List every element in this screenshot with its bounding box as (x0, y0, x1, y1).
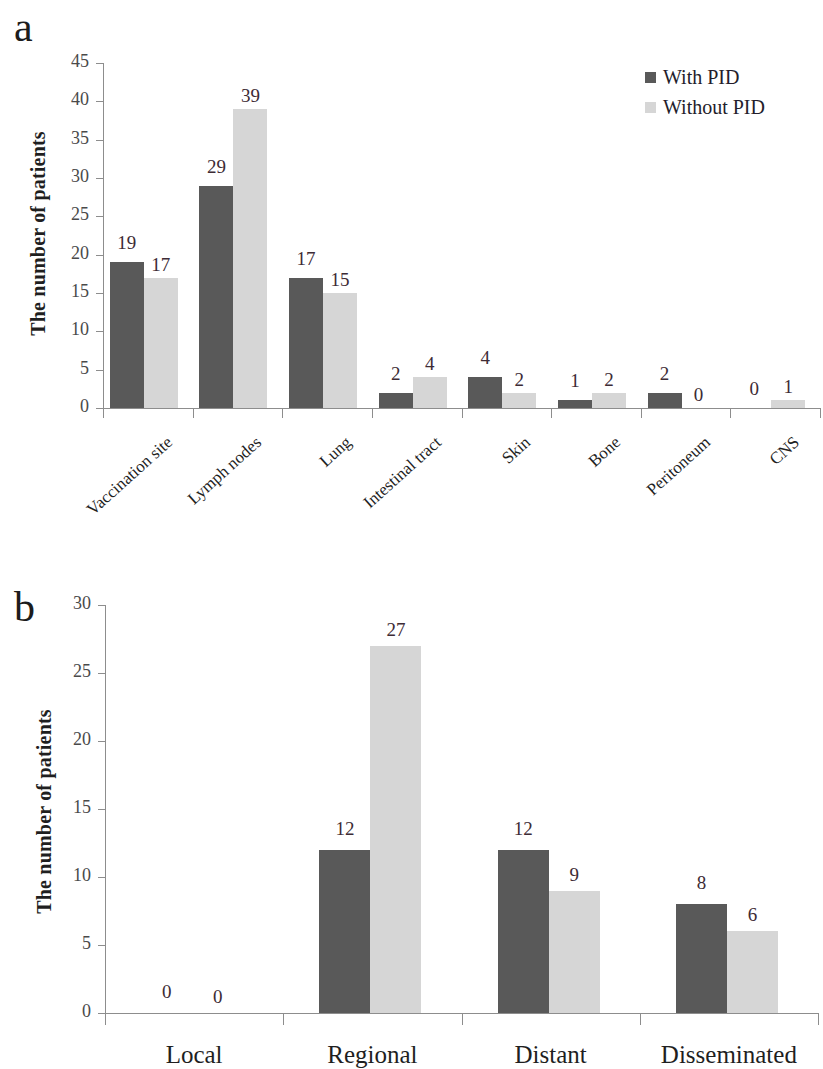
y-axis-tick-label: 20 (41, 243, 89, 264)
panel-a-letter: a (14, 6, 33, 48)
bar (319, 850, 370, 1013)
bar (498, 850, 549, 1013)
bar (549, 891, 600, 1013)
y-axis-tick (96, 408, 103, 409)
panel-a-plot-area: 0510152025303540451917Vaccination site29… (103, 63, 820, 408)
y-axis-tick-label: 5 (41, 358, 89, 379)
bar-value-label: 12 (323, 818, 367, 840)
bar-value-label: 2 (643, 363, 687, 385)
x-axis-tick (818, 1013, 819, 1025)
bar-value-label: 8 (679, 872, 723, 894)
bar (289, 278, 323, 408)
y-axis-tick (96, 140, 103, 141)
y-axis-tick-label: 10 (41, 319, 89, 340)
x-axis-tick (105, 1013, 106, 1025)
bar (676, 904, 727, 1013)
y-axis-line (105, 605, 106, 1013)
y-axis-tick (96, 101, 103, 102)
bar (379, 393, 413, 408)
bar-value-label: 4 (408, 353, 452, 375)
bar-value-label: 9 (552, 864, 596, 886)
bar-value-label: 0 (677, 384, 721, 406)
y-axis-tick (96, 331, 103, 332)
x-axis-tick (640, 1013, 641, 1025)
bar-value-label: 39 (228, 85, 272, 107)
y-axis-tick (98, 673, 105, 674)
y-axis-tick-label: 20 (43, 729, 91, 750)
bar-value-label: 4 (463, 347, 507, 369)
bar-value-label: 0 (196, 986, 240, 1008)
y-axis-tick (103, 408, 110, 409)
bar-value-label: 2 (587, 369, 631, 391)
bar (323, 293, 357, 408)
x-axis-tick (372, 408, 373, 418)
y-axis-tick (96, 370, 103, 371)
x-axis-tick (462, 408, 463, 418)
panel-b-plot-area: 05101520253000Local1227Regional129Distan… (105, 605, 818, 1013)
bar-value-label: 15 (318, 269, 362, 291)
panel-a: a The number of patients With PID Withou… (0, 0, 823, 560)
x-axis-tick (730, 408, 731, 418)
y-axis-tick (105, 1013, 112, 1014)
bar (199, 186, 233, 408)
y-axis-tick (96, 63, 103, 64)
y-axis-tick (96, 178, 103, 179)
bar (144, 278, 178, 408)
y-axis-tick (96, 255, 103, 256)
y-axis-tick (98, 809, 105, 810)
y-axis-tick-label: 25 (43, 661, 91, 682)
y-axis-tick-label: 15 (41, 281, 89, 302)
y-axis-tick-label: 40 (41, 89, 89, 110)
bar (558, 400, 592, 408)
bar-value-label: 1 (766, 376, 810, 398)
x-axis-category-label: Disseminated (619, 1041, 823, 1069)
bar-value-label: 17 (139, 254, 183, 276)
x-axis-tick (462, 1013, 463, 1025)
bar-value-label: 0 (145, 981, 189, 1003)
bar (233, 109, 267, 408)
y-axis-tick-label: 25 (41, 204, 89, 225)
y-axis-tick (98, 605, 105, 606)
y-axis-tick (98, 877, 105, 878)
y-axis-tick (98, 741, 105, 742)
bar-value-label: 2 (497, 369, 541, 391)
x-axis-tick (551, 408, 552, 418)
y-axis-tick-label: 15 (43, 797, 91, 818)
bar-value-label: 27 (374, 619, 418, 641)
x-axis-tick (283, 1013, 284, 1025)
panel-b: b The number of patients 05101520253000L… (0, 560, 823, 1066)
bar (727, 931, 778, 1013)
x-axis-tick (641, 408, 642, 418)
bar-value-label: 12 (501, 818, 545, 840)
bar (502, 393, 536, 408)
bar-value-label: 17 (284, 248, 328, 270)
panel-b-letter: b (14, 586, 35, 628)
bar-value-label: 29 (194, 156, 238, 178)
y-axis-tick-label: 5 (43, 933, 91, 954)
bar (370, 646, 421, 1013)
x-axis-tick (820, 408, 821, 418)
bar (771, 400, 805, 408)
y-axis-tick-label: 10 (43, 865, 91, 886)
x-axis-tick (282, 408, 283, 418)
y-axis-tick-label: 45 (41, 51, 89, 72)
y-axis-tick (96, 293, 103, 294)
y-axis-tick (98, 945, 105, 946)
bar-value-label: 6 (730, 904, 774, 926)
y-axis-tick-label: 35 (41, 128, 89, 149)
bar-value-label: 19 (105, 232, 149, 254)
y-axis-tick-label: 0 (41, 396, 89, 417)
y-axis-tick (96, 216, 103, 217)
y-axis-tick-label: 30 (41, 166, 89, 187)
y-axis-tick-label: 30 (43, 593, 91, 614)
bar (592, 393, 626, 408)
x-axis-tick (193, 408, 194, 418)
y-axis-tick (98, 1013, 105, 1014)
bar (110, 262, 144, 408)
x-axis-tick (103, 408, 104, 418)
bar (413, 377, 447, 408)
y-axis-tick-label: 0 (43, 1001, 91, 1022)
